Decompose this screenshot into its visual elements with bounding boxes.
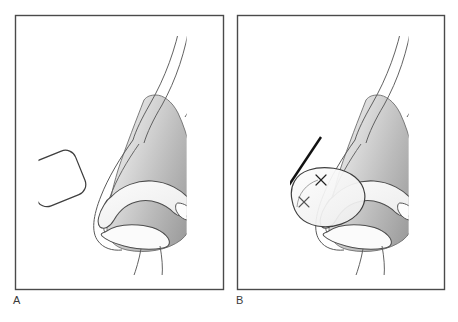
panel-label-a: A	[13, 294, 21, 306]
panel-label-b: B	[236, 294, 244, 306]
illustration-canvas	[0, 0, 458, 322]
panel-b	[238, 16, 445, 292]
panel-b-frame	[238, 16, 445, 290]
panel-a-frame	[16, 16, 224, 290]
cartilage-graft-placed-b	[291, 168, 365, 227]
panel-a	[16, 16, 224, 292]
figure-root: A B	[0, 0, 458, 322]
